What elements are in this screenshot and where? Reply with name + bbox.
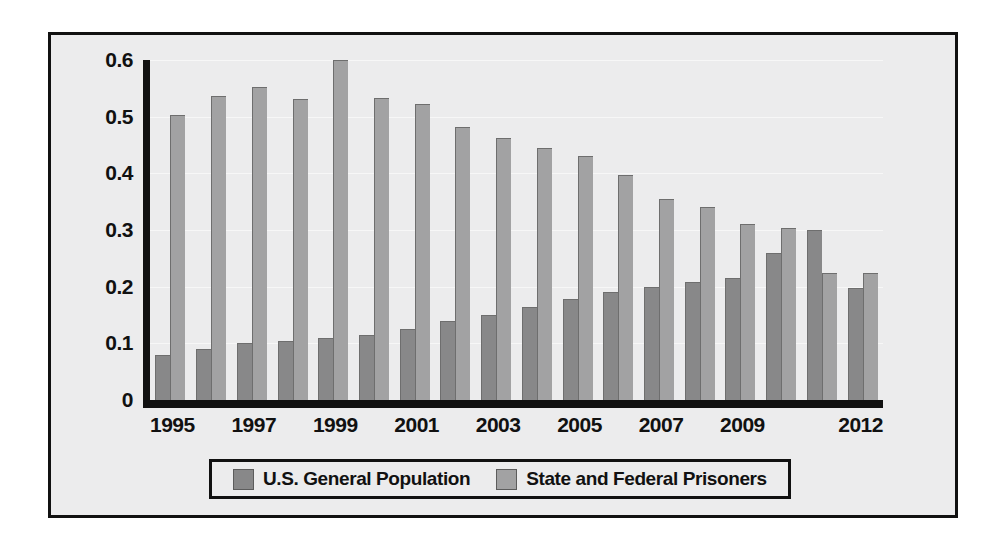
- bar: [781, 228, 796, 400]
- y-axis-tick-label: 0.3: [105, 218, 133, 242]
- legend-label: U.S. General Population: [263, 468, 470, 490]
- bar: [603, 292, 618, 400]
- bar: [155, 355, 170, 400]
- bar: [455, 127, 470, 400]
- legend-entry: State and Federal Prisoners: [489, 468, 774, 490]
- x-axis-tick-label: 2003: [476, 413, 521, 437]
- bar-group: [313, 60, 354, 400]
- bar: [848, 288, 863, 400]
- bar-group: [191, 60, 232, 400]
- x-axis-tick-label: 1999: [313, 413, 358, 437]
- x-axis-tick-label: 2005: [557, 413, 602, 437]
- legend-entry: U.S. General Population: [226, 468, 477, 490]
- bar: [766, 253, 781, 400]
- bar: [537, 148, 552, 400]
- bar-group: [842, 60, 883, 400]
- bar-group: [231, 60, 272, 400]
- y-axis-tick-label: 0.4: [105, 161, 133, 185]
- bar: [725, 278, 740, 400]
- y-axis-tick-label: 0: [122, 388, 133, 412]
- bar: [496, 138, 511, 400]
- x-axis-tick-label: [439, 413, 476, 437]
- bar: [822, 273, 837, 401]
- legend-label: State and Federal Prisoners: [526, 468, 767, 490]
- chart-legend: U.S. General PopulationState and Federal…: [209, 459, 791, 499]
- bar: [481, 315, 496, 400]
- legend-color-swatch: [233, 469, 254, 490]
- bar: [359, 335, 374, 400]
- bar: [700, 207, 715, 400]
- x-axis-tick-label: 2007: [639, 413, 684, 437]
- bar-group: [802, 60, 843, 400]
- y-axis-line: [143, 60, 150, 408]
- bar-group: [476, 60, 517, 400]
- x-axis-tick-label: [683, 413, 720, 437]
- bar: [440, 321, 455, 400]
- bar: [196, 349, 211, 400]
- x-axis-tick-label: [195, 413, 232, 437]
- bar: [807, 230, 822, 400]
- bar-group: [394, 60, 435, 400]
- x-axis-tick-label: [765, 413, 802, 437]
- bar-group: [639, 60, 680, 400]
- bar: [415, 104, 430, 400]
- legend-color-swatch: [496, 469, 517, 490]
- y-axis-tick-label: 0.5: [105, 105, 133, 129]
- x-axis-tick-labels: 1995 1997 1999 2001 2003 2005 2007 2009 …: [150, 413, 883, 437]
- x-axis-tick-label: [602, 413, 639, 437]
- bar-group: [272, 60, 313, 400]
- x-axis-tick-label: [520, 413, 557, 437]
- x-axis-tick-label: 1995: [150, 413, 195, 437]
- bar: [237, 343, 252, 400]
- bar: [170, 115, 185, 400]
- bar: [740, 224, 755, 400]
- x-axis-tick-label: [358, 413, 395, 437]
- bar-groups: [150, 60, 883, 400]
- bar-group: [354, 60, 395, 400]
- bar: [522, 307, 537, 401]
- bar: [293, 99, 308, 400]
- bar: [578, 156, 593, 400]
- y-axis-tick-label: 0.6: [105, 48, 133, 72]
- bar: [374, 98, 389, 400]
- x-axis-tick-label: [276, 413, 313, 437]
- plot-area: 00.10.20.30.40.50.6: [143, 60, 883, 408]
- bar: [252, 87, 267, 400]
- chart-figure: 00.10.20.30.40.50.6 1995 1997 1999 2001 …: [48, 32, 958, 518]
- bar: [318, 338, 333, 400]
- bar: [563, 299, 578, 400]
- bar-group: [516, 60, 557, 400]
- y-axis-tick-label: 0.1: [105, 331, 133, 355]
- bar: [644, 287, 659, 400]
- bar-group: [720, 60, 761, 400]
- bar: [278, 341, 293, 401]
- bar-group: [761, 60, 802, 400]
- x-axis-tick-label: [802, 413, 839, 437]
- bar-group: [598, 60, 639, 400]
- x-axis-line: [143, 400, 883, 408]
- bar-group: [435, 60, 476, 400]
- bar: [659, 199, 674, 400]
- bar-group: [150, 60, 191, 400]
- x-axis-tick-label: 2009: [720, 413, 765, 437]
- y-axis-tick-label: 0.2: [105, 275, 133, 299]
- bar: [333, 60, 348, 400]
- x-axis-tick-label: 1997: [231, 413, 276, 437]
- bar-group: [679, 60, 720, 400]
- bar-group: [557, 60, 598, 400]
- bar: [211, 96, 226, 400]
- bar: [400, 329, 415, 400]
- x-axis-tick-label: 2012: [838, 413, 883, 437]
- bar: [685, 282, 700, 400]
- bar: [863, 273, 878, 401]
- x-axis-tick-label: 2001: [394, 413, 439, 437]
- bar: [618, 175, 633, 400]
